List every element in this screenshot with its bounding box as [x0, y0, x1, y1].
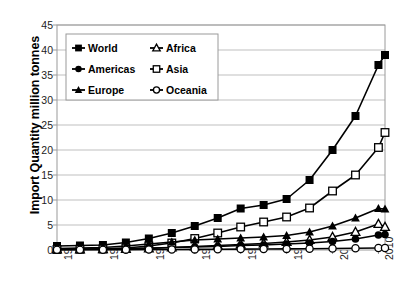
legend-label: Asia [166, 63, 188, 75]
filled-square-marker [237, 205, 245, 213]
open-circle-marker [283, 245, 290, 252]
filled-circle-marker [375, 231, 383, 239]
open-square-marker [260, 218, 268, 226]
filled-square-marker [168, 229, 176, 237]
open-square-marker [283, 213, 291, 221]
filled-square-marker [191, 222, 199, 230]
open-circle-marker [329, 245, 336, 252]
open-square-marker [375, 144, 383, 152]
legend-label: Europe [88, 84, 124, 96]
y-axis-tick-marks [53, 25, 57, 250]
open-circle-marker [381, 244, 388, 251]
open-square-marker [153, 66, 159, 72]
open-circle-marker [191, 246, 198, 253]
filled-square-marker [381, 51, 389, 59]
filled-square-marker [260, 201, 268, 209]
legend-label: Americas [88, 63, 135, 75]
open-circle-marker [260, 245, 267, 252]
filled-square-marker [306, 176, 314, 184]
open-circle-marker [153, 87, 159, 93]
open-circle-marker [214, 246, 221, 253]
filled-square-marker [329, 146, 337, 154]
open-circle-marker [53, 246, 60, 253]
open-circle-marker [352, 245, 359, 252]
legend-label: Africa [166, 42, 196, 54]
open-circle-marker [306, 245, 313, 252]
open-circle-marker [99, 246, 106, 253]
open-square-marker [352, 171, 360, 179]
open-circle-marker [145, 246, 152, 253]
chart-legend: WorldAfricaAmericasAsiaEuropeOceania [66, 34, 218, 100]
filled-circle-marker [329, 238, 337, 246]
filled-circle-marker [352, 235, 360, 243]
open-square-marker [306, 204, 314, 212]
chart-container: Import Quantity million tonnes 051015202… [0, 0, 400, 306]
open-circle-marker [168, 246, 175, 253]
filled-square-marker [214, 214, 222, 222]
filled-square-marker [283, 195, 291, 203]
open-square-marker [237, 223, 245, 231]
plot-area: WorldAfricaAmericasAsiaEuropeOceania [0, 0, 400, 306]
filled-square-marker [351, 112, 359, 120]
filled-square-marker [75, 45, 82, 52]
open-circle-marker [122, 246, 129, 253]
open-square-marker [381, 129, 389, 137]
legend-label: Oceania [166, 84, 207, 96]
filled-square-marker [374, 61, 382, 69]
legend-label: World [88, 42, 118, 54]
open-circle-marker [237, 246, 244, 253]
open-square-marker [329, 187, 337, 195]
open-circle-marker [76, 246, 83, 253]
filled-circle-marker [381, 231, 389, 239]
filled-circle-marker [75, 66, 81, 72]
